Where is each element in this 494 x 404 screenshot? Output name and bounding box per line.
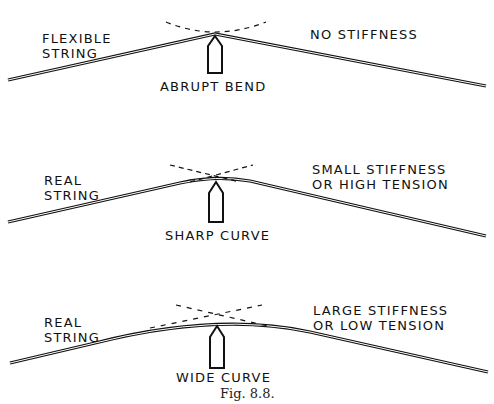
- left-label-line1: FLEXIBLE: [42, 31, 112, 46]
- left-label-line2: STRING: [44, 330, 100, 345]
- left-label-line1: REAL: [44, 173, 82, 188]
- left-label-line1: REAL: [44, 315, 82, 330]
- bridge-icon: [210, 326, 224, 368]
- tangent-dashed-lines: [166, 22, 266, 32]
- left-label-line2: STRING: [44, 188, 100, 203]
- right-label-line1: LARGE STIFFNESS: [313, 303, 448, 318]
- bridge-label: SHARP CURVE: [165, 228, 270, 243]
- left-label-line2: STRING: [42, 46, 98, 61]
- right-label-line2: OR HIGH TENSION: [312, 177, 449, 192]
- bridge-icon: [209, 182, 223, 222]
- bridge-icon: [208, 36, 222, 73]
- right-label-line2: OR LOW TENSION: [313, 318, 445, 333]
- right-label-line1: SMALL STIFFNESS: [312, 162, 446, 177]
- bridge-label: WIDE CURVE: [176, 370, 271, 385]
- figure-caption: Fig. 8.8.: [220, 386, 275, 401]
- right-label-line1: NO STIFFNESS: [310, 27, 418, 42]
- bridge-label: ABRUPT BEND: [160, 79, 266, 94]
